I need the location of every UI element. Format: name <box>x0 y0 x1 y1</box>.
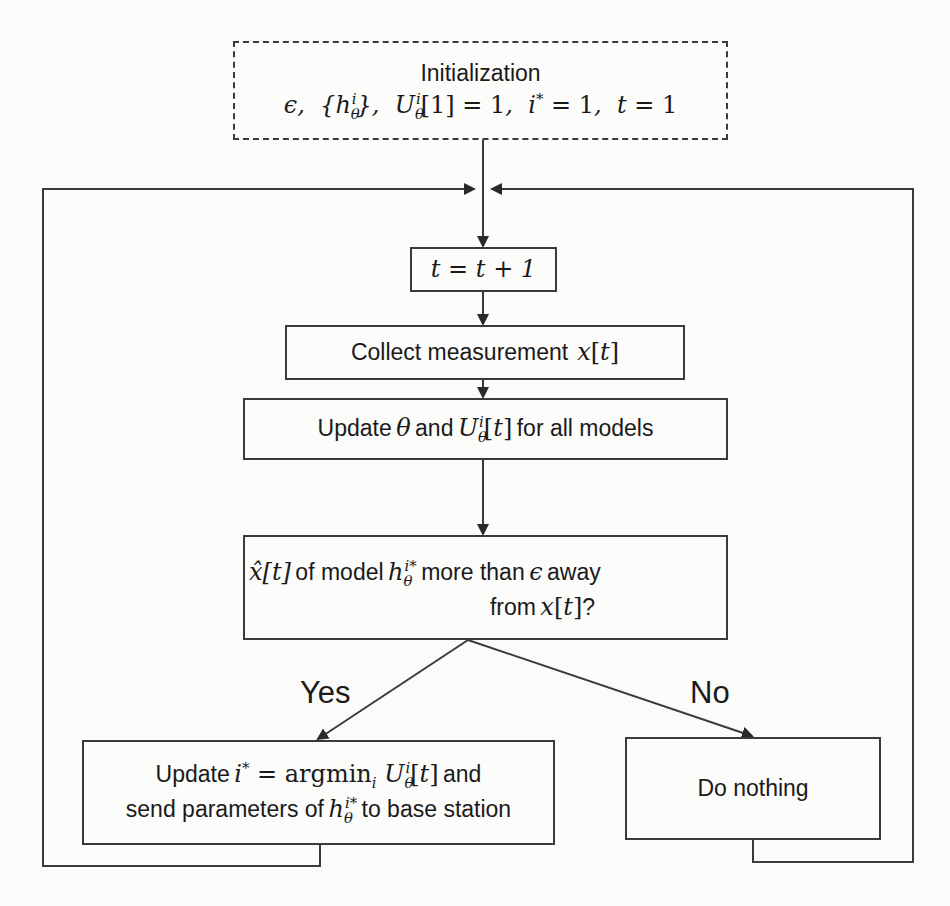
yes-action-argmin: i* = argmini Uθi[t] <box>234 760 438 788</box>
update-and: and <box>415 415 453 441</box>
init-title: Initialization <box>420 58 540 89</box>
no-action-box: Do nothing <box>625 737 881 840</box>
update-suffix: for all models <box>517 415 654 441</box>
decision-box: x̂[t] of model hθi* more than ϵ away fro… <box>243 535 728 640</box>
yes-action-and: and <box>443 761 481 787</box>
increment-box: t = t + 1 <box>410 247 557 292</box>
yes-action-box: Update i* = argmini Uθi[t] and send para… <box>82 740 555 845</box>
init-box: Initialization ϵ, {hθi}, Uθi[1] = 1, i* … <box>233 41 728 140</box>
update-theta: θ <box>396 414 410 442</box>
decision-question: ? <box>582 594 595 620</box>
no-action-text: Do nothing <box>697 773 808 804</box>
decision-xhat: x̂[t] <box>249 558 291 586</box>
update-box: Update θ and Uθi[t] for all models <box>243 398 728 460</box>
yes-action-model: hθi* <box>328 795 357 823</box>
yes-label: Yes <box>300 675 351 711</box>
decision-epsilon: ϵ <box>529 558 542 586</box>
increment-text: t = t + 1 <box>431 253 536 285</box>
collect-text: Collect measurement <box>351 339 568 365</box>
decision-more-than: more than <box>421 559 525 585</box>
init-params: ϵ, {hθi}, Uθi[1] = 1, i* = 1, t = 1 <box>284 89 677 124</box>
decision-model: hθi* <box>388 558 417 586</box>
collect-math: x[t] <box>577 338 619 366</box>
decision-of-model: of model <box>295 559 383 585</box>
update-prefix: Update <box>318 415 392 441</box>
yes-action-base-station: to base station <box>362 796 512 822</box>
yes-action-update: Update <box>156 761 230 787</box>
decision-from: from <box>490 594 536 620</box>
decision-x: x[t] <box>540 593 582 621</box>
decision-away: away <box>547 559 601 585</box>
update-utility: Uθi[t] <box>458 414 512 442</box>
collect-box: Collect measurement x[t] <box>285 325 685 380</box>
no-label: No <box>690 675 730 711</box>
yes-action-send: send parameters of <box>126 796 324 822</box>
